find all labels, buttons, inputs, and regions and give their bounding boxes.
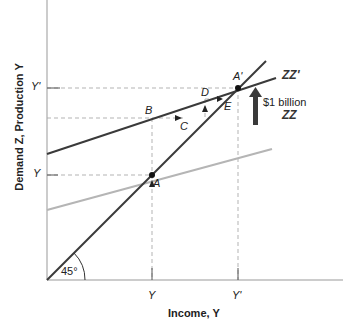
y-tick-label-Y: Y	[33, 167, 40, 179]
label-D: D	[201, 86, 209, 98]
angle-label: 45°	[61, 265, 78, 277]
shift-label: $1 billion	[263, 96, 306, 108]
zz-prime-line	[47, 78, 276, 154]
x-tick-label-Yprime: Y'	[232, 289, 241, 301]
shift-arrow-head	[249, 87, 262, 97]
y-axis-title: Demand Z, Production Y	[13, 62, 25, 192]
label-A-prime: A'	[233, 70, 242, 82]
point-A-prime	[235, 85, 241, 91]
zz-label: ZZ	[282, 108, 297, 122]
label-E: E	[224, 100, 231, 112]
x-tick-label-Y: Y	[148, 289, 155, 301]
label-B: B	[145, 104, 152, 116]
multiplier-diagram: Demand Z, Production Y Income, Y Y' Y Y …	[0, 0, 343, 325]
diagram-canvas	[0, 0, 343, 325]
forty-five-degree-line	[47, 61, 266, 280]
arrow-up-C-D	[202, 105, 208, 112]
label-C: C	[180, 120, 188, 132]
shift-arrow-shaft	[253, 96, 258, 125]
label-A: A	[153, 177, 160, 189]
y-tick-label-Yprime: Y'	[31, 80, 40, 92]
zz-prime-label: ZZ'	[282, 68, 300, 82]
x-axis-title: Income, Y	[168, 307, 220, 319]
